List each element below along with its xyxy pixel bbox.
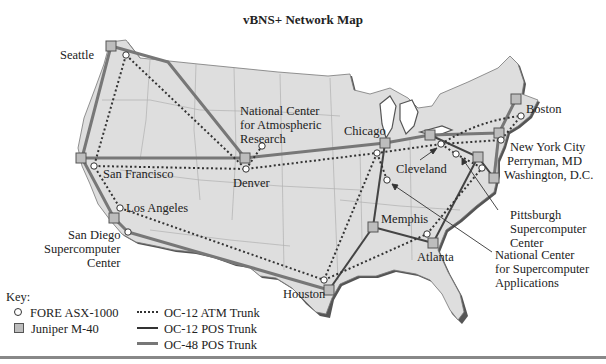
label-ncsa-line2: for Supercomputer (495, 262, 589, 276)
legend-item-oc48-pos: OC-48 POS Trunk (137, 338, 257, 353)
solid-thick-line-icon (137, 342, 158, 345)
legend-label-juniper: Juniper M-40 (31, 322, 99, 336)
label-ncsa: National Center for Supercomputer Applic… (495, 248, 589, 290)
solid-dark-line-icon (137, 327, 158, 329)
bottom-divider (0, 356, 606, 359)
label-psc: Pittsburgh Supercomputer Center (510, 208, 586, 250)
legend-item-fore: FORE ASX-1000 (14, 306, 119, 321)
network-map-figure: vBNS+ Network Map (0, 0, 606, 364)
legend-label-oc48-pos: OC-48 POS Trunk (164, 338, 257, 352)
label-denver: Denver (233, 176, 270, 190)
label-cleveland: Cleveland (396, 162, 447, 176)
label-new-york-city: New York City (510, 140, 585, 154)
dotted-line-icon (137, 311, 158, 313)
legend-label-fore: FORE ASX-1000 (30, 306, 119, 320)
legend-item-juniper: Juniper M-40 (14, 322, 99, 337)
label-ncar-line1: National Center (240, 104, 322, 118)
label-sdsc-line2: Supercomputer (44, 242, 120, 256)
legend-heading: Key: (6, 290, 30, 305)
label-sdsc: San Diego Supercomputer Center (44, 228, 120, 270)
label-ncsa-line1: National Center (495, 248, 589, 262)
label-psc-line1: Pittsburgh (510, 208, 586, 222)
label-sdsc-line1: San Diego (44, 228, 120, 242)
juniper-node-icon (14, 323, 24, 333)
label-seattle: Seattle (60, 48, 94, 62)
label-psc-line2: Supercomputer (510, 222, 586, 236)
legend-item-oc12-pos: OC-12 POS Trunk (137, 322, 257, 337)
label-washington: Washington, D.C. (504, 168, 593, 182)
label-san-francisco: San Francisco (103, 167, 173, 181)
label-ncsa-line3: Applications (495, 276, 589, 290)
label-ncar-line2: for Atmospheric (240, 118, 322, 132)
label-los-angeles: Los Angeles (126, 201, 188, 215)
legend-item-oc12-atm: OC-12 ATM Trunk (137, 306, 260, 321)
label-chicago: Chicago (344, 124, 386, 138)
label-ncar: National Center for Atmospheric Research (240, 104, 322, 146)
label-perryman: Perryman, MD (507, 154, 582, 168)
fore-node-icon (14, 308, 22, 316)
label-atlanta: Atlanta (417, 250, 454, 264)
legend-label-oc12-atm: OC-12 ATM Trunk (164, 306, 260, 320)
label-sdsc-line3: Center (44, 256, 120, 270)
label-memphis: Memphis (381, 212, 428, 226)
label-houston: Houston (283, 287, 325, 301)
label-boston: Boston (526, 102, 561, 116)
legend-label-oc12-pos: OC-12 POS Trunk (164, 322, 257, 336)
label-ncar-line3: Research (240, 132, 322, 146)
